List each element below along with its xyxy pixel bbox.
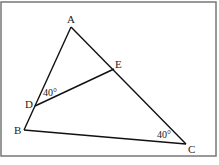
angle-label-c: 40° bbox=[157, 129, 171, 140]
label-c: C bbox=[188, 143, 195, 155]
label-b: B bbox=[14, 124, 21, 136]
label-a: A bbox=[67, 13, 75, 25]
diagram-frame bbox=[1, 2, 216, 156]
label-d: D bbox=[25, 98, 33, 110]
triangle-diagram: A E D B C 40° 40° bbox=[0, 0, 219, 165]
angle-label-d: 40° bbox=[43, 87, 57, 98]
label-e: E bbox=[115, 58, 122, 70]
